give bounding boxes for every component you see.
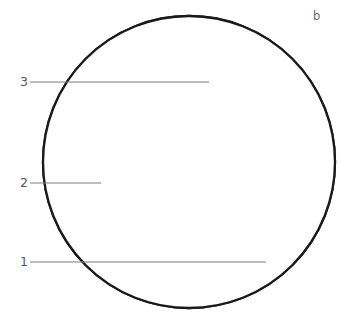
field-of-view-rim bbox=[43, 16, 335, 308]
callout-number-1: 1 bbox=[20, 254, 28, 269]
callout-number-2: 2 bbox=[20, 175, 28, 190]
figure-panel-b: 123 b bbox=[0, 0, 344, 319]
schematic-drawing: 123 b bbox=[0, 0, 344, 319]
callout-number-3: 3 bbox=[20, 74, 28, 89]
panel-letter-label: b bbox=[313, 9, 320, 23]
